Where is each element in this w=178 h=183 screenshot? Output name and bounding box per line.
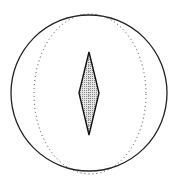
compass-diagram <box>0 0 178 183</box>
